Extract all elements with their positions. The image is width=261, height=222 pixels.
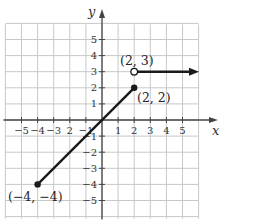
closed-dot-icon xyxy=(34,181,40,187)
open-dot-icon xyxy=(131,68,138,75)
y-tick-label: 2 xyxy=(91,82,97,93)
y-tick-label: 5 xyxy=(91,34,97,45)
x-tick-label: −3 xyxy=(46,125,61,136)
y-tick-label: 3 xyxy=(91,66,97,77)
y-tick-label: 4 xyxy=(91,50,97,61)
y-axis-arrow-icon xyxy=(99,9,105,18)
point-label-neg4-neg4: (−4, −4) xyxy=(8,189,63,204)
x-tick-label: −5 xyxy=(14,125,29,136)
y-axis-label: y xyxy=(87,4,96,19)
x-tick-label: 2 xyxy=(67,125,73,136)
y-tick-label: −5 xyxy=(82,195,97,206)
piecewise-function-graph: −5−4−32−11234554321−1−2−3−4−5 y x (2, 3)… xyxy=(0,0,261,222)
point-label-open: (2, 3) xyxy=(120,53,154,68)
x-tick-label: 2 xyxy=(131,125,137,136)
x-tick-label: −4 xyxy=(30,125,45,136)
x-tick-label: 1 xyxy=(115,125,121,136)
x-tick-label: 5 xyxy=(179,125,185,136)
x-tick-label: 4 xyxy=(163,125,169,136)
y-tick-label: −2 xyxy=(82,147,97,158)
x-tick-label: 3 xyxy=(147,125,153,136)
arrow-head-icon xyxy=(189,68,199,76)
axes xyxy=(3,9,218,220)
x-axis-label: x xyxy=(212,123,220,138)
y-tick-label: −4 xyxy=(82,179,97,190)
y-tick-label: −3 xyxy=(82,163,97,174)
y-tick-label: 1 xyxy=(91,98,97,109)
point-label-2-2: (2, 2) xyxy=(137,90,171,105)
